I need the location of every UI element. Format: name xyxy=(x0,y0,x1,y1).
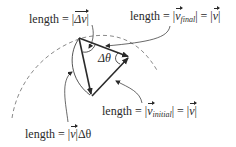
delta-theta-label: Δθ xyxy=(98,51,111,66)
label-text: |Δθ xyxy=(76,127,92,141)
label-text: length = | xyxy=(130,9,175,23)
label-v-final-length: length = |vfinal| = |v| xyxy=(130,9,220,27)
label-text: | = | xyxy=(195,9,213,23)
label-text: length = | xyxy=(102,104,147,118)
leader-v-final xyxy=(106,26,170,46)
label-text: | = | xyxy=(172,104,190,118)
vector-symbol: v xyxy=(213,9,218,23)
vector-symbol: Δv xyxy=(74,12,86,26)
vector-symbol: v xyxy=(189,104,194,118)
vector-symbol: v xyxy=(147,104,152,118)
label-text: | xyxy=(218,9,220,23)
label-arc-length: length = |v|Δθ xyxy=(25,127,91,141)
subscript: final xyxy=(181,15,196,24)
subscript: initial xyxy=(153,110,172,119)
leader-v-initial xyxy=(116,81,142,103)
delta-theta-angle-arc xyxy=(116,53,120,64)
label-text: length = | xyxy=(25,127,70,141)
leader-arc-length xyxy=(65,72,72,122)
vector-symbol: v xyxy=(175,9,180,23)
label-delta-v-length: length = |Δv| xyxy=(29,12,89,26)
vector-symbol: v xyxy=(70,127,75,141)
velocity-triangle-diagram: Δθ length = |Δv| length = |vfinal| = |v|… xyxy=(0,0,236,147)
label-text: length = | xyxy=(29,12,74,26)
label-v-initial-length: length = |vinitial| = |v| xyxy=(102,104,197,122)
top-vertex-angle-arc xyxy=(83,45,95,52)
